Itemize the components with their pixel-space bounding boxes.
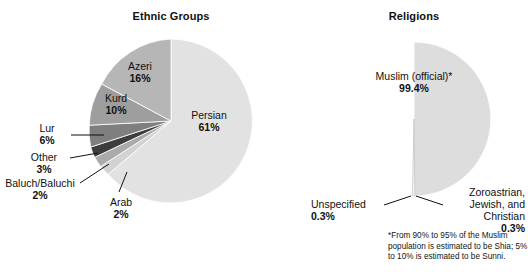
- slice-label-muslim-value: 99.4%: [349, 82, 479, 94]
- chart-title-religions: Religions: [300, 10, 528, 22]
- slice-label-kurd-name: Kurd: [105, 92, 127, 104]
- religions-footnote: *From 90% to 95% of the Muslim populatio…: [388, 231, 528, 263]
- slice-label-lur-value: 6%: [26, 134, 68, 146]
- slice-label-azeri-name: Azeri: [128, 60, 152, 72]
- slice-label-unspecified-value: 0.3%: [311, 210, 385, 222]
- slice-label-zoroastrian-line3: Christian: [484, 210, 525, 222]
- slice-label-kurd: Kurd 10%: [91, 92, 141, 116]
- slice-label-baluch: Baluch/Baluchi 2%: [1, 177, 79, 201]
- slice-label-lur-name: Lur: [39, 122, 54, 134]
- slice-label-baluch-name: Baluch/Baluchi: [5, 177, 74, 189]
- slice-label-unspecified-name: Unspecified: [311, 198, 366, 210]
- slice-label-persian-value: 61%: [177, 121, 241, 133]
- slice-label-azeri: Azeri 16%: [115, 60, 165, 84]
- slice-label-other-value: 3%: [21, 163, 67, 175]
- religions-pie-group: [384, 42, 491, 205]
- slice-label-arab-name: Arab: [110, 196, 132, 208]
- slice-label-arab: Arab 2%: [100, 196, 142, 220]
- slice-label-lur: Lur 6%: [26, 122, 68, 146]
- leader-line-baluch: [80, 164, 109, 183]
- slice-label-baluch-value: 2%: [1, 189, 79, 201]
- slice-label-other: Other 3%: [21, 151, 67, 175]
- slice-label-arab-value: 2%: [100, 208, 142, 220]
- slice-label-persian: Persian 61%: [177, 109, 241, 133]
- slice-label-other-name: Other: [31, 151, 57, 163]
- slice-label-azeri-value: 16%: [115, 72, 165, 84]
- slice-label-zoroastrian-line2: Jewish, and: [470, 198, 525, 210]
- slice-label-muslim-name: Muslim (official)*: [376, 70, 453, 82]
- slice-label-kurd-value: 10%: [91, 104, 141, 116]
- slice-label-persian-name: Persian: [191, 109, 227, 121]
- slice-label-unspecified: Unspecified 0.3%: [311, 198, 385, 222]
- leader-line-unspecified: [384, 196, 411, 205]
- chart-title-ethnic-groups: Ethnic Groups: [0, 10, 342, 22]
- pie-slice-muslim: [413, 42, 491, 196]
- slice-label-muslim: Muslim (official)* 99.4%: [349, 70, 479, 94]
- slice-label-zoroastrian: Zoroastrian, Jewish, and Christian 0.3%: [432, 186, 525, 234]
- slice-label-zoroastrian-line1: Zoroastrian,: [469, 186, 525, 198]
